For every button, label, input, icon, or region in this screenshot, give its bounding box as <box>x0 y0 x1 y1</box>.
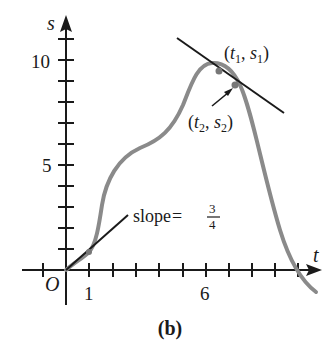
position-time-graph: s t O 1 6 5 10 slope= 3 4 (t1, s1) (t2, … <box>0 0 333 364</box>
slope-numerator: 3 <box>209 201 216 216</box>
slope-denominator: 4 <box>209 217 216 232</box>
x-tick-label-1: 1 <box>84 283 94 304</box>
initial-tangent-line <box>66 215 128 270</box>
y-tick-label-5: 5 <box>42 155 52 176</box>
point-slope <box>86 249 92 255</box>
point1-label: (t1, s1) <box>224 43 269 66</box>
point2-label: (t2, s2) <box>188 112 233 135</box>
figure-caption: (b) <box>158 317 182 340</box>
x-axis-label: t <box>313 244 319 266</box>
point-t2-s2 <box>232 82 239 89</box>
position-curve <box>66 63 316 292</box>
origin-label: O <box>45 273 59 295</box>
slope-label: slope= <box>133 206 182 226</box>
y-axis <box>58 15 74 305</box>
y-axis-label: s <box>47 12 55 34</box>
point-t1-s1 <box>216 68 223 75</box>
x-tick-label-6: 6 <box>200 283 210 304</box>
y-tick-label-10: 10 <box>31 51 50 72</box>
